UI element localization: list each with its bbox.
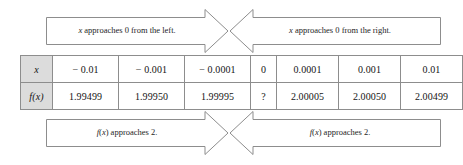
cell-fx-2: 1.99995 xyxy=(185,83,251,110)
table-row-fx: f(x) 1.99499 1.99950 1.99995 ? 2.00005 2… xyxy=(21,83,463,110)
cell-x-4: 0.0001 xyxy=(277,56,339,83)
top-arrow-band: x approaches 0 from the left. x approach… xyxy=(0,8,452,54)
cell-x-6: 0.01 xyxy=(401,56,463,83)
bottom-right-arrow-label: f(x) approaches 2. xyxy=(250,126,430,138)
row-label-fx: f(x) xyxy=(21,83,53,110)
cell-x-2: − 0.0001 xyxy=(185,56,251,83)
cell-x-3: 0 xyxy=(251,56,277,83)
cell-fx-5: 2.00050 xyxy=(339,83,401,110)
bottom-left-arrow-label: f(x) approaches 2. xyxy=(52,126,202,138)
cell-fx-0: 1.99499 xyxy=(53,83,119,110)
top-left-arrow-label: x approaches 0 from the left. xyxy=(52,24,202,36)
bottom-arrow-band: f(x) approaches 2. f(x) approaches 2. xyxy=(0,110,452,156)
cell-fx-1: 1.99950 xyxy=(119,83,185,110)
row-label-x: x xyxy=(21,56,53,83)
cell-fx-4: 2.00005 xyxy=(277,83,339,110)
top-right-arrow-label: x approaches 0 from the right. xyxy=(250,24,430,36)
cell-fx-6: 2.00499 xyxy=(401,83,463,110)
limit-values-table: x − 0.01 − 0.001 − 0.0001 0 0.0001 0.001… xyxy=(20,55,463,110)
cell-x-1: − 0.001 xyxy=(119,56,185,83)
cell-x-0: − 0.01 xyxy=(53,56,119,83)
table-row-x: x − 0.01 − 0.001 − 0.0001 0 0.0001 0.001… xyxy=(21,56,463,83)
cell-fx-3: ? xyxy=(251,83,277,110)
cell-x-5: 0.001 xyxy=(339,56,401,83)
